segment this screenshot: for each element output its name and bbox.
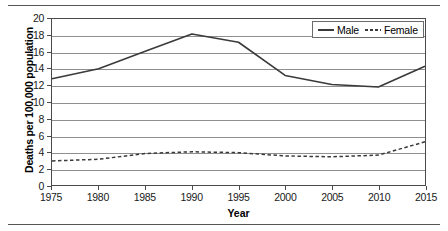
y-tick-label: 16 (18, 47, 44, 57)
y-tick-label: 20 (18, 13, 44, 23)
chart-legend: Male Female (312, 21, 424, 38)
plot-area (51, 18, 426, 186)
x-tick-label: 2010 (359, 191, 399, 203)
y-tick-label: 12 (18, 80, 44, 90)
x-tick-label: 2000 (265, 191, 305, 203)
x-tick-mark (239, 186, 240, 190)
legend-label-female: Female (384, 24, 418, 36)
x-tick-label: 2015 (406, 191, 446, 203)
y-tick-label: 0 (18, 181, 44, 191)
x-tick-label: 1980 (78, 191, 118, 203)
y-tick-label: 4 (18, 147, 44, 157)
x-tick-label: 1995 (219, 191, 259, 203)
legend-label-male: Male (337, 24, 359, 36)
x-tick-mark (285, 186, 286, 190)
chart-page: Deaths per 100,000 population Year 02468… (0, 0, 448, 231)
series-line-female (52, 142, 425, 161)
series-line-male (52, 34, 425, 87)
x-tick-mark (332, 186, 333, 190)
x-tick-mark (379, 186, 380, 190)
x-tick-label: 1975 (31, 191, 71, 203)
y-tick-label: 14 (18, 63, 44, 73)
legend-swatch-dashed-line-icon (365, 26, 381, 34)
legend-entry-female: Female (365, 24, 418, 36)
x-tick-mark (145, 186, 146, 190)
x-tick-mark (98, 186, 99, 190)
x-tick-label: 1990 (172, 191, 212, 203)
x-tick-label: 1985 (125, 191, 165, 203)
x-tick-mark (192, 186, 193, 190)
y-tick-label: 10 (18, 97, 44, 107)
x-tick-mark (51, 186, 52, 190)
legend-swatch-solid-line-icon (318, 26, 334, 34)
x-tick-label: 2005 (312, 191, 352, 203)
y-tick-label: 2 (18, 164, 44, 174)
series-lines (52, 19, 425, 185)
x-tick-mark (426, 186, 427, 190)
x-axis-title: Year (51, 207, 426, 219)
line-chart: Deaths per 100,000 population Year 02468… (0, 0, 448, 231)
y-tick-label: 18 (18, 30, 44, 40)
y-tick-label: 8 (18, 114, 44, 124)
y-tick-label: 6 (18, 131, 44, 141)
legend-entry-male: Male (318, 24, 359, 36)
